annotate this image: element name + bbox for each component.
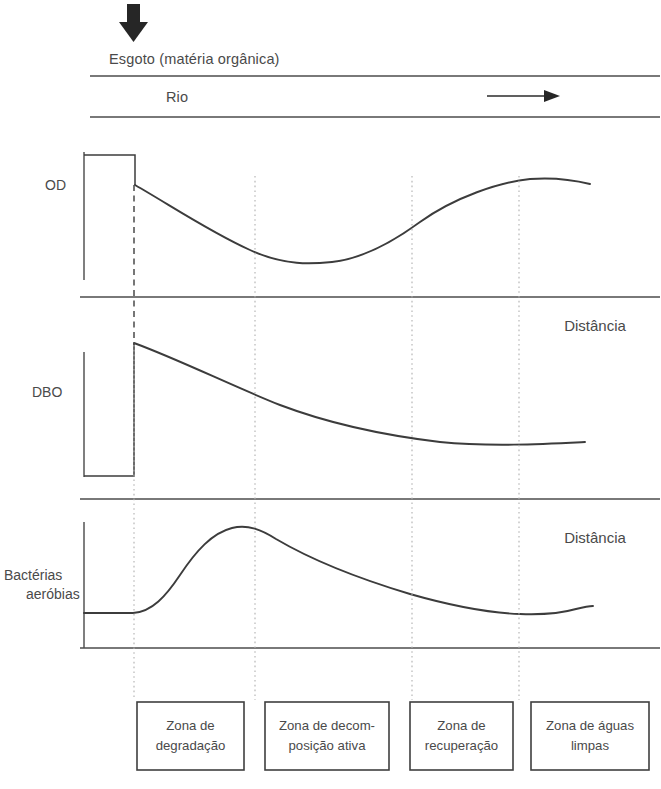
panel-od-x-axis-label: Distância — [564, 317, 626, 334]
zone-label-line1: Zona de decom- — [279, 718, 375, 733]
panel-dbo-axis-label: DBO — [32, 384, 62, 400]
zone-label-line2: limpas — [571, 738, 610, 753]
panel-dbo: DBO Distância — [32, 317, 660, 499]
zone-box-recuperacao[interactable]: Zona de recuperação — [410, 702, 513, 770]
panel-dbo-curve — [134, 343, 585, 445]
right-arrow-icon — [487, 90, 560, 102]
zone-label-line1: Zona de águas — [546, 718, 634, 733]
zone-label-line1: Zona de — [437, 718, 485, 733]
panel-od-axis-label: OD — [45, 177, 66, 193]
panel-od: OD — [45, 152, 660, 297]
panel-bacterias-curve — [84, 527, 593, 615]
zone-box-aguas-limpas[interactable]: Zona de águas limpas — [531, 702, 649, 770]
panel-dbo-x-axis-label: Distância — [564, 529, 626, 546]
panel-bacterias: Bactérias aeróbias Distância — [4, 522, 660, 648]
zone-box-decomposicao-ativa[interactable]: Zona de decom- posição ativa — [265, 702, 389, 770]
zone-label-line2: recuperação — [425, 738, 498, 753]
down-arrow-icon — [119, 4, 148, 42]
panel-bacterias-axis-label-line2: aeróbias — [26, 586, 80, 602]
figure-canvas: Esgoto (matéria orgânica) Rio OD DBO Dis… — [0, 0, 661, 789]
sewage-label: Esgoto (matéria orgânica) — [109, 51, 280, 67]
zone-label-line2: posição ativa — [289, 738, 367, 753]
river-label: Rio — [166, 89, 188, 105]
panel-od-curve — [135, 178, 590, 263]
zone-label-line1: Zona de — [166, 718, 214, 733]
panel-od-inflow-step — [84, 155, 135, 185]
autodepuracao-diagram: Esgoto (matéria orgânica) Rio OD DBO Dis… — [0, 0, 661, 789]
zone-box-degradacao[interactable]: Zona de degradação — [137, 702, 244, 770]
panel-bacterias-axis-label-line1: Bactérias — [4, 567, 62, 583]
zone-label-line2: degradação — [156, 738, 226, 753]
panel-dbo-inflow-step — [84, 343, 134, 476]
